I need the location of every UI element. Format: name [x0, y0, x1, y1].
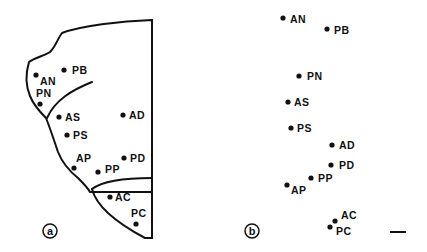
point-PS: PS: [64, 129, 88, 141]
lower-divider: [92, 178, 152, 189]
svg-text:a: a: [47, 225, 54, 237]
point-PD: PD: [121, 152, 145, 164]
point-AS: AS: [285, 96, 309, 108]
point-PD: PD: [328, 159, 354, 171]
point-PN: PN: [296, 70, 322, 82]
point-AP: AP: [71, 152, 91, 171]
svg-text:AD: AD: [339, 139, 355, 151]
point-AN: AN: [280, 13, 306, 25]
svg-text:AD: AD: [129, 109, 145, 121]
svg-text:PP: PP: [105, 163, 120, 175]
point-PN: PN: [36, 87, 52, 107]
svg-text:AN: AN: [40, 75, 56, 87]
svg-text:PS: PS: [73, 129, 88, 141]
point-AC: AC: [332, 209, 357, 224]
svg-text:PC: PC: [131, 207, 147, 219]
point-PC: PC: [327, 224, 351, 237]
svg-text:PN: PN: [307, 70, 323, 82]
panel-b-label: b: [245, 224, 259, 238]
svg-text:AS: AS: [65, 111, 81, 123]
panel-b-points: AN PB PN AS PS AD PD PP AP AC PC: [280, 13, 357, 237]
svg-text:AS: AS: [294, 96, 310, 108]
svg-text:AC: AC: [341, 209, 357, 221]
svg-text:PP: PP: [318, 172, 333, 184]
point-PS: PS: [288, 122, 312, 134]
diagram-canvas: AN PB PN AS AD PS AP PD PP AC PC a AN PB…: [0, 0, 427, 252]
point-AN: AN: [33, 72, 56, 87]
outer-boundary: [27, 20, 153, 192]
svg-text:AN: AN: [290, 13, 306, 25]
panel-a-points: AN PB PN AS AD PS AP PD PP AC PC: [33, 64, 146, 227]
point-AD: AD: [329, 139, 355, 151]
point-PB: PB: [324, 24, 349, 36]
point-PP: PP: [308, 172, 333, 184]
svg-text:b: b: [249, 225, 256, 237]
svg-text:PC: PC: [336, 225, 352, 237]
panel-a-outline: [27, 20, 153, 238]
svg-text:AP: AP: [76, 152, 92, 164]
point-AD: AD: [120, 109, 145, 121]
svg-text:PD: PD: [339, 159, 355, 171]
svg-text:PD: PD: [130, 152, 146, 164]
point-PP: PP: [95, 163, 120, 175]
point-PB: PB: [61, 64, 87, 76]
svg-text:PB: PB: [72, 64, 88, 76]
svg-text:PN: PN: [36, 87, 52, 99]
svg-text:PS: PS: [297, 122, 312, 134]
svg-text:PB: PB: [334, 24, 350, 36]
svg-text:AP: AP: [291, 184, 307, 196]
panel-a-label: a: [43, 224, 57, 238]
point-PC: PC: [131, 207, 147, 227]
point-AP: AP: [284, 182, 306, 196]
point-AS: AS: [56, 111, 80, 123]
svg-text:AC: AC: [115, 191, 131, 203]
